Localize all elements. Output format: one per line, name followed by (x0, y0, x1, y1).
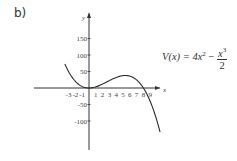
x-tick-label: 4 (114, 91, 118, 99)
function-formula: V(x) = 4x2 − x3 2 (162, 45, 227, 71)
formula-num-exp: 3 (223, 46, 227, 54)
x-tick-label: 7 (135, 91, 139, 99)
y-tick-label: 50 (80, 68, 88, 76)
formula-minus: − (206, 51, 217, 62)
x-tick-label: 6 (128, 91, 132, 99)
formula-lhs: V(x) = 4x (162, 51, 202, 62)
y-tick-label: 150 (77, 35, 88, 43)
x-tick-label: 2 (101, 91, 105, 99)
x-tick-label: -2 (72, 91, 78, 99)
y-tick-label: -50 (78, 101, 88, 109)
x-tick-label: 1 (94, 91, 98, 99)
x-tick-label: 8 (142, 91, 146, 99)
x-tick-label: 3 (108, 91, 112, 99)
formula-den: 2 (217, 60, 227, 71)
y-tick-label: -100 (74, 118, 87, 126)
formula-fraction: x3 2 (217, 45, 227, 71)
tick-labels: xy-3-2-112345678915010050-50-100 (66, 14, 167, 126)
y-axis-label: y (81, 14, 86, 22)
function-plot: xy-3-2-112345678915010050-50-100 (0, 0, 237, 161)
x-axis-arrow-icon (155, 86, 160, 90)
x-tick-label: -3 (66, 91, 72, 99)
x-tick-label: -1 (79, 91, 85, 99)
y-tick-label: 100 (77, 52, 88, 60)
x-axis-label: x (162, 86, 167, 94)
axes (34, 12, 160, 150)
x-tick-label: 5 (121, 91, 125, 99)
y-axis-arrow-icon (87, 12, 91, 18)
